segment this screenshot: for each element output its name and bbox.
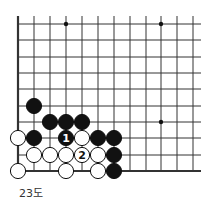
- white-stone: [26, 147, 41, 162]
- white-stone: [58, 147, 73, 162]
- star-point-icon: [64, 22, 68, 26]
- grid-lines: [18, 16, 201, 171]
- go-board: 12: [0, 0, 217, 211]
- white-stone: [90, 147, 105, 162]
- black-stone: [106, 147, 121, 162]
- black-stone: [42, 114, 57, 129]
- white-stone: [58, 163, 73, 178]
- white-stone: [90, 163, 105, 178]
- black-stone: [106, 163, 121, 178]
- star-point-icon: [159, 22, 163, 26]
- white-stone: [10, 130, 25, 145]
- black-stone: [106, 130, 121, 145]
- star-point-icon: [159, 120, 163, 124]
- white-stone: [74, 130, 89, 145]
- black-stone: 1: [58, 130, 73, 145]
- move-number-label: 2: [78, 149, 86, 162]
- black-stone: [58, 114, 73, 129]
- black-stone: [26, 130, 41, 145]
- diagram-caption: 23도: [19, 184, 43, 200]
- black-stone: [90, 130, 105, 145]
- white-stone: 2: [74, 147, 89, 162]
- white-stone: [42, 147, 57, 162]
- black-stone: [74, 114, 89, 129]
- white-stone: [10, 163, 25, 178]
- black-stone: [26, 98, 41, 113]
- move-number-label: 1: [62, 132, 70, 145]
